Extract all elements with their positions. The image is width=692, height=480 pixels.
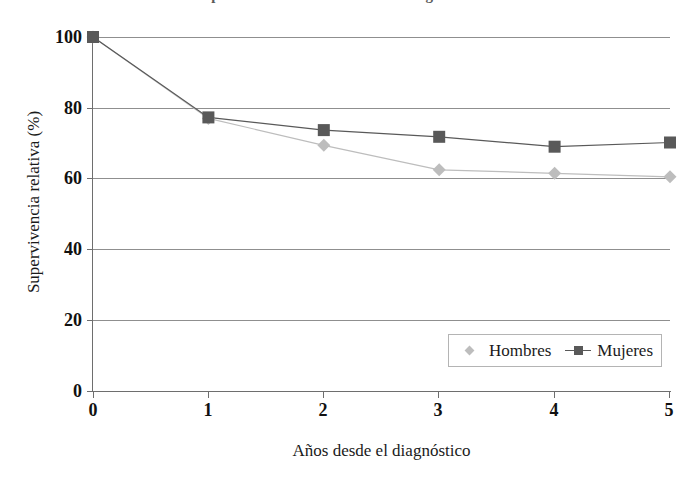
gridline-40: [93, 249, 670, 250]
square-glyph: [574, 346, 583, 355]
x-tick-label-4: 4: [534, 400, 574, 421]
x-axis-title: Años desde el diagnóstico: [93, 441, 670, 461]
y-tick-label-0: 0: [36, 382, 82, 400]
legend: Hombres Mujeres: [448, 334, 662, 367]
y-tick-80: [87, 108, 93, 109]
x-tick-label-1: 1: [188, 400, 228, 421]
x-tick-3: [438, 392, 439, 398]
chart-title: Supervivencia relativa en cáncer según e…: [0, 0, 692, 4]
y-tick-20: [87, 320, 93, 321]
y-tick-100: [87, 37, 93, 38]
y-tick-label-100: 100: [36, 28, 82, 46]
legend-item-mujeres[interactable]: Mujeres: [565, 341, 653, 361]
gridline-100: [93, 37, 670, 38]
x-tick-1: [208, 392, 209, 398]
gridline-20: [93, 320, 670, 321]
x-tick-4: [554, 392, 555, 398]
gridline-60: [93, 178, 670, 179]
legend-label-hombres: Hombres: [489, 341, 551, 361]
diamond-marker-icon: [457, 344, 483, 358]
y-axis-line: [92, 36, 93, 392]
square-marker-icon: [565, 344, 591, 358]
x-tick-label-3: 3: [418, 400, 458, 421]
y-tick-40: [87, 249, 93, 250]
x-axis-line: [92, 391, 671, 392]
y-tick-60: [87, 178, 93, 179]
x-tick-label-2: 2: [303, 400, 343, 421]
y-axis-title: Supervivencia relativa (%): [24, 52, 44, 352]
x-tick-label-5: 5: [649, 400, 689, 421]
relative-survival-chart: Supervivencia relativa en cáncer según e…: [0, 0, 692, 480]
x-tick-5: [669, 392, 670, 398]
x-tick-2: [323, 392, 324, 398]
x-tick-0: [93, 392, 94, 398]
gridline-80: [93, 108, 670, 109]
x-tick-label-0: 0: [73, 400, 113, 421]
diamond-glyph: [465, 346, 475, 356]
legend-item-hombres[interactable]: Hombres: [457, 341, 551, 361]
legend-label-mujeres: Mujeres: [597, 341, 653, 361]
